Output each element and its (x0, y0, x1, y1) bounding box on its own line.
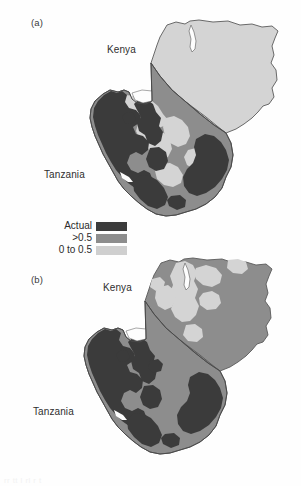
caption-remnant: rr tt l rl r t (4, 476, 42, 485)
legend-swatch-above-half (96, 234, 127, 243)
tanzania-label-b: Tanzania (33, 406, 74, 417)
legend-label-actual: Actual (64, 221, 92, 231)
legend-swatch-actual (96, 222, 127, 231)
kenya-label-b: Kenya (103, 282, 132, 293)
legend-item-actual: Actual (0, 221, 135, 231)
legend-item-above-half: >0.5 (0, 233, 135, 243)
map-b-graphic (0, 243, 301, 486)
legend-label-above-half: >0.5 (72, 233, 92, 243)
map-panel-a: (a) (0, 0, 301, 243)
map-a-graphic (0, 0, 301, 243)
map-panel-b: (b) (0, 243, 301, 486)
tanzania-label-a: Tanzania (44, 169, 85, 180)
kenya-label-a: Kenya (107, 44, 136, 55)
figure-root: (a) (0, 0, 301, 486)
